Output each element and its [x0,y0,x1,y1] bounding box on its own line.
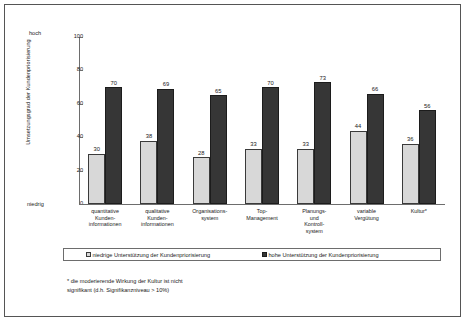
chart-footnote: * die moderierende Wirkung der Kultur is… [67,277,327,294]
legend-label-high: hohe Unterstützung der Kundenpriorisieru… [269,252,379,258]
x-category-label-line: Vergütung [336,215,398,222]
bar-group: 3869 [131,37,183,204]
bar-group: 3070 [79,37,131,204]
bar-value-label: 69 [154,81,178,87]
bars-layer: 3070386928653370337344663656 [79,37,445,204]
bar-value-label: 56 [415,103,439,109]
x-category-label: Kultur* [388,208,450,215]
bar-value-label: 73 [311,75,335,81]
bar-low-support[interactable] [297,149,314,204]
bar-low-support[interactable] [350,131,367,204]
x-category-label-line: Kultur* [388,208,450,215]
legend-swatch-low-icon [86,252,91,257]
bar-high-support[interactable] [262,87,279,204]
bar-low-support[interactable] [88,154,105,204]
y-tick-mark-0 [80,204,83,205]
bar-group: 3370 [236,37,288,204]
bar-value-label: 70 [258,80,282,86]
footnote-line-1: * die moderierende Wirkung der Kultur is… [67,277,327,286]
footnote-line-2: signifikant (d.h. Signifikanzniveau > 10… [67,286,327,295]
figure-frame: Umsetzungsgrad der Kundenpriorisierung h… [4,4,461,317]
chart-plot-region: Umsetzungsgrad der Kundenpriorisierung h… [5,5,462,318]
bar-low-support[interactable] [245,149,262,204]
y-axis-low-label: niedrig [27,201,44,207]
x-category-label-line: informationen [126,221,188,228]
legend-swatch-high-icon [262,252,267,257]
bar-high-support[interactable] [419,110,436,204]
bar-group: 3373 [288,37,340,204]
bar-group: 4466 [340,37,392,204]
x-axis-line [79,204,445,205]
legend-item-high: hohe Unterstützung der Kundenpriorisieru… [262,252,379,258]
bar-low-support[interactable] [140,141,157,204]
bar-high-support[interactable] [367,94,384,204]
bar-high-support[interactable] [105,87,122,204]
bar-value-label: 70 [102,80,126,86]
legend-label-low: niedrige Unterstützung der Kundenprioris… [93,252,211,258]
y-axis-high-label: hoch [29,30,41,36]
bar-low-support[interactable] [402,144,419,204]
x-category-label-line: Kontroll- [283,221,345,228]
bar-high-support[interactable] [314,82,331,204]
x-category-label-line: system [283,228,345,235]
bar-low-support[interactable] [193,157,210,204]
bar-high-support[interactable] [210,95,227,204]
bar-high-support[interactable] [157,89,174,204]
bar-value-label: 65 [206,88,230,94]
chart-legend: niedrige Unterstützung der Kundenprioris… [63,248,441,261]
bar-group: 3656 [393,37,445,204]
y-axis-title: Umsetzungsgrad der Kundenpriorisierung [25,17,31,167]
bar-group: 2865 [184,37,236,204]
bar-value-label: 66 [363,86,387,92]
legend-item-low: niedrige Unterstützung der Kundenprioris… [86,252,210,258]
